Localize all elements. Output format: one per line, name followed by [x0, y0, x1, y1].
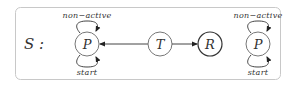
- state-diagram: S : non−active start P T R non−active st…: [0, 0, 291, 88]
- loop-label-non-active-right: non−active: [233, 11, 282, 20]
- loop-label-start-right: start: [248, 68, 269, 77]
- node-label-t: T: [156, 37, 166, 52]
- loop-label-non-active-left: non−active: [62, 11, 111, 20]
- loop-label-start-left: start: [77, 68, 98, 77]
- self-loop-non-active-right: [248, 21, 269, 33]
- node-t: T: [148, 32, 172, 56]
- node-label-p-right: P: [253, 37, 263, 52]
- self-loop-start-left: [77, 55, 98, 67]
- self-loop-non-active-left: [77, 21, 98, 33]
- node-p-right: non−active start P: [233, 11, 282, 77]
- self-loop-start-right: [248, 55, 269, 67]
- node-label-p-left: P: [82, 37, 92, 52]
- node-r: R: [198, 32, 222, 56]
- set-label: S :: [24, 35, 44, 53]
- node-label-r: R: [204, 37, 215, 52]
